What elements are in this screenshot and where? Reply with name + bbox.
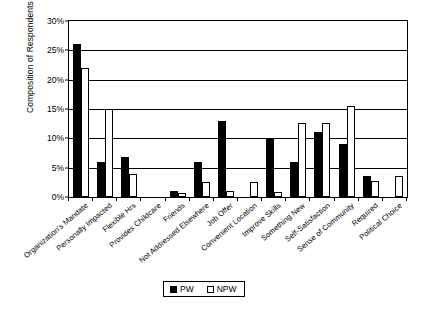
bar-pw [121,157,129,197]
y-axis-tick-label: 30% [47,16,64,26]
bar-npw [347,106,355,197]
bar-npw [129,174,137,197]
bar-npw [298,123,306,198]
bar-group [286,21,310,197]
bar-group [166,21,190,197]
y-axis-tick-label: 20% [47,75,64,85]
bar-group [117,21,141,197]
bar-group [238,21,262,197]
y-axis-tick-mark [65,50,69,51]
y-axis-tick-mark [65,109,69,110]
bar-pw [339,144,347,197]
bar-pw [97,162,105,197]
y-axis-title: Composition of Respondents [25,0,35,137]
empty-white-square-icon [207,286,214,293]
bar-pw [314,132,322,197]
bar-group [359,21,383,197]
y-axis-tick-mark [65,79,69,80]
bar-npw [105,109,113,197]
bar-group [214,21,238,197]
y-axis-tick-label: 0% [52,192,64,202]
y-axis-tick-label: 10% [47,133,64,143]
bar-group [93,21,117,197]
bar-group [310,21,334,197]
y-axis-tick-label: 5% [52,163,64,173]
plot-area: 30%25%20%15%10%5%0% [68,20,408,198]
bar-chart: Composition of Respondents 30%25%20%15%1… [0,0,427,312]
x-axis-label: Political Choice [358,201,404,242]
legend-entry: NPW [207,284,237,294]
bar-npw [371,181,379,197]
bar-group [141,21,165,197]
bar-npw [81,68,89,197]
bar-group [335,21,359,197]
bar-group [262,21,286,197]
y-axis-tick-mark [65,138,69,139]
x-axis-tick-mark [406,197,407,201]
bar-pw [218,121,226,197]
bar-group [383,21,407,197]
bar-npw [395,176,403,197]
bar-npw [250,182,258,197]
filled-black-square-icon [170,286,177,293]
y-axis-tick-label: 25% [47,45,64,55]
bar-pw [266,138,274,197]
x-axis-labels: Organization's MandatePersonally Impacte… [68,201,406,271]
bar-pw [290,162,298,197]
bar-npw [202,182,210,197]
bar-pw [194,162,202,197]
legend-label: NPW [217,284,237,294]
legend-entry: PW [170,284,194,294]
bar-group [190,21,214,197]
bar-pw [363,176,371,197]
bars-layer [69,21,407,197]
bar-group [69,21,93,197]
y-axis-tick-mark [65,21,69,22]
chart-legend: PWNPW [163,281,245,297]
legend-label: PW [180,284,194,294]
y-axis-tick-mark [65,167,69,168]
bar-npw [322,123,330,198]
y-axis-tick-label: 15% [47,104,64,114]
bar-pw [73,44,81,197]
